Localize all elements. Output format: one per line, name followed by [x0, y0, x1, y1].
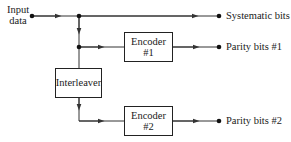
parity-bits-2-label: Parity bits #2: [226, 115, 282, 126]
encoder1-block: Encoder #1: [124, 32, 173, 62]
input-label-line1: Input: [5, 4, 31, 15]
encoder1-number: #1: [143, 47, 154, 59]
output-dot: [217, 14, 222, 19]
input-data-label: Input data: [5, 4, 31, 26]
encoder1-label: Encoder: [131, 36, 166, 48]
output-dot: [217, 45, 222, 50]
encoder2-number: #2: [143, 121, 154, 133]
systematic-bits-label: Systematic bits: [226, 10, 290, 21]
encoder2-label: Encoder: [131, 110, 166, 122]
input-label-line2: data: [5, 15, 31, 26]
junction-dot: [77, 45, 82, 50]
interleaver-label: Interleaver: [56, 77, 101, 89]
parity-bits-1-label: Parity bits #1: [226, 41, 282, 52]
output-dot: [217, 119, 222, 124]
encoder2-block: Encoder #2: [124, 106, 173, 136]
junction-dot: [77, 14, 82, 19]
interleaver-block: Interleaver: [55, 68, 102, 98]
